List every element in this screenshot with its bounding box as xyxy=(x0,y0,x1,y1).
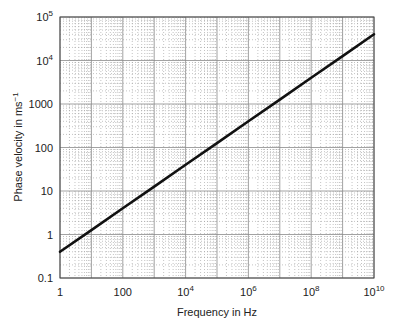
x-tick-label: 100 xyxy=(114,286,132,298)
x-axis-ticks: 11001041061081010 xyxy=(57,284,385,298)
x-tick-label: 108 xyxy=(303,284,320,298)
y-tick-label: 1000 xyxy=(29,98,53,110)
y-tick-label: 0.1 xyxy=(38,272,53,284)
y-tick-label: 104 xyxy=(36,53,53,67)
major-gridlines xyxy=(60,17,374,278)
y-axis-label-text: Phase velocity in ms xyxy=(12,101,24,202)
x-tick-label: 104 xyxy=(177,284,194,298)
x-tick-label: 106 xyxy=(240,284,257,298)
x-tick-label: 1010 xyxy=(363,284,385,298)
y-axis-label-exponent: −1 xyxy=(11,92,20,102)
x-tick-label: 1 xyxy=(57,286,63,298)
phase-velocity-chart: 11001041061081010 0.11101001000104105 Fr… xyxy=(0,0,399,324)
y-axis-ticks: 0.11101001000104105 xyxy=(29,9,54,284)
y-axis-label: Phase velocity in ms−1 xyxy=(11,92,24,202)
x-axis-label: Frequency in Hz xyxy=(177,306,257,318)
y-tick-label: 105 xyxy=(36,9,53,23)
y-tick-label: 1 xyxy=(47,229,53,241)
y-tick-label: 100 xyxy=(35,142,53,154)
y-tick-label: 10 xyxy=(41,185,53,197)
